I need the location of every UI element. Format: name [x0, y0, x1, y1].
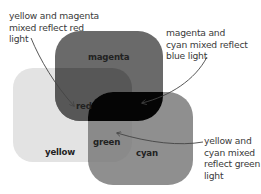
- label-cyan: cyan: [136, 148, 158, 158]
- color-mixing-diagram: magenta red yellow green cyan yellow and…: [0, 0, 261, 194]
- label-yellow: yellow: [45, 147, 75, 157]
- caption-green-light: yellow and cyan mixed reflect green ligh…: [204, 135, 260, 181]
- caption-red-light: yellow and magenta mixed reflect red lig…: [9, 10, 99, 45]
- label-magenta: magenta: [88, 52, 129, 62]
- caption-blue-light: magenta and cyan mixed reflect blue ligh…: [166, 27, 248, 62]
- label-red: red: [76, 101, 92, 111]
- label-green: green: [93, 137, 120, 147]
